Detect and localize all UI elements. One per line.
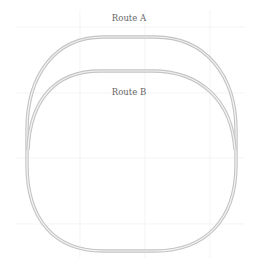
route-b-label: Route B [112,87,146,97]
track-diagram [0,0,254,265]
route-a-label: Route A [112,13,146,23]
route-b-track [28,71,235,150]
route-a-track [27,37,236,251]
grid [15,10,245,258]
